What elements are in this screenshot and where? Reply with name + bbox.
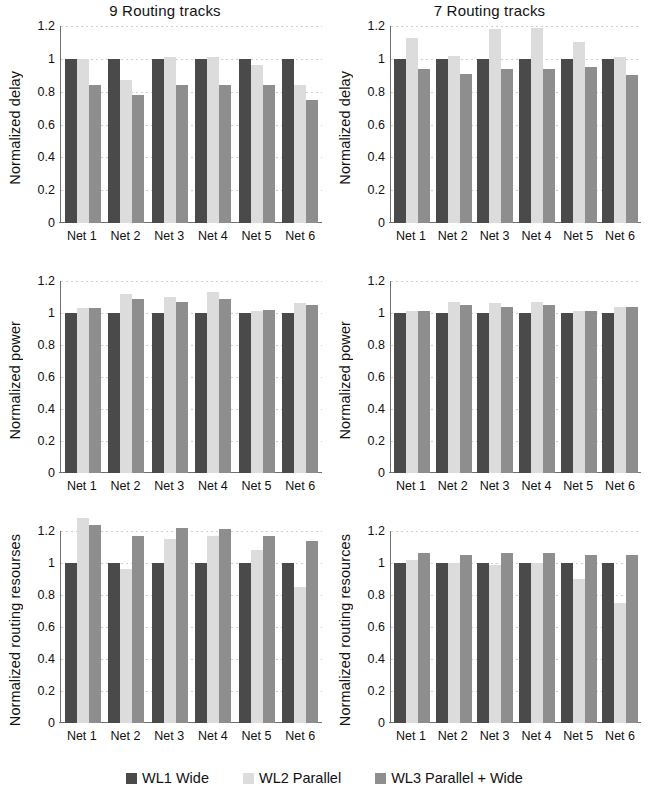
bar-group [391,26,433,223]
y-tick-label: 1 [48,306,55,320]
y-tick-label: 1 [378,556,385,570]
bar-3 [176,528,188,723]
bar-3 [543,69,555,223]
bar-group [235,281,279,473]
bar-2 [406,311,418,473]
x-axis-ticks: Net 1Net 2Net 3Net 4Net 5Net 6 [390,229,641,249]
y-tick-label: 0.4 [368,402,385,416]
bar-group [279,281,323,473]
x-tick-label: Net 5 [557,229,599,249]
legend-label: WL3 Parallel + Wide [391,770,523,786]
y-tick-label: 1.2 [368,19,385,33]
bar-3 [626,307,638,473]
bars-plot [390,26,641,223]
bar-2 [448,302,460,473]
y-tick-label: 0.8 [38,588,55,602]
x-tick-label: Net 6 [599,479,641,499]
y-tick-label: 1 [378,306,385,320]
x-tick-label: Net 2 [104,479,148,499]
y-tick-label: 0.8 [368,85,385,99]
y-tick-label: 0.8 [38,85,55,99]
plot-area: 1.210.80.60.40.20Net 1Net 2Net 3Net 4Net… [358,26,643,255]
bar-2 [251,65,263,223]
bar-1 [394,563,406,723]
y-tick-label: 0.6 [368,370,385,384]
bar-2 [120,294,132,473]
bar-groups [391,531,641,723]
bar-2 [448,56,460,223]
bar-3 [543,305,555,473]
y-axis-ticks: 1.210.80.60.40.20 [358,26,388,255]
x-axis-ticks: Net 1Net 2Net 3Net 4Net 5Net 6 [60,229,322,249]
x-tick-label: Net 2 [104,729,148,749]
y-tick-label: 1.2 [38,274,55,288]
figure-grid: 9 Routing tracksNormalized delay1.210.80… [0,0,649,755]
y-axis-ticks: 1.210.80.60.40.20 [28,531,58,755]
y-tick-label: 0.8 [368,338,385,352]
bar-1 [477,313,489,473]
bar-1 [477,59,489,223]
chart-panel-4: Normalized power1.210.80.60.40.20Net 1Ne… [330,255,649,505]
y-tick-label: 1.2 [368,524,385,538]
bar-group [599,531,641,723]
y-tick-label: 0.2 [368,183,385,197]
x-tick-label: Net 6 [278,479,322,499]
bar-1 [195,563,207,723]
bar-1 [239,313,251,473]
bar-2 [573,311,585,473]
y-tick-label: 1.2 [38,524,55,538]
bar-1 [108,313,120,473]
bar-2 [251,311,263,473]
chart-title: 9 Routing tracks [0,2,330,19]
bar-1 [195,313,207,473]
y-tick-label: 0.4 [38,652,55,666]
x-tick-label: Net 4 [191,229,235,249]
bar-group [474,281,516,473]
bar-1 [519,59,531,223]
x-tick-label: Net 5 [235,729,279,749]
bar-1 [394,313,406,473]
bar-1 [519,313,531,473]
chart-panel-5: Normalized routing resourses1.210.80.60.… [0,505,330,755]
bar-2 [120,569,132,723]
y-tick-label: 0.6 [368,620,385,634]
bar-1 [602,313,614,473]
y-tick-label: 0.4 [38,402,55,416]
bar-groups [61,531,322,723]
chart-panel-3: Normalized power1.210.80.60.40.20Net 1Ne… [0,255,330,505]
x-tick-label: Net 6 [599,229,641,249]
bar-1 [282,313,294,473]
bar-3 [460,74,472,223]
bar-2 [164,539,176,723]
bar-3 [176,302,188,473]
y-tick-label: 0 [48,716,55,730]
bar-group [61,531,105,723]
y-axis-label-text: Normalized routing resources [337,534,353,726]
bar-2 [164,297,176,473]
legend-item: WL3 Parallel + Wide [375,770,523,786]
bar-3 [626,555,638,723]
bar-1 [561,563,573,723]
bar-2 [614,307,626,473]
bar-3 [418,553,430,723]
bar-groups [61,26,322,223]
bars-plot [390,281,641,473]
bar-2 [614,57,626,223]
y-tick-label: 0.2 [368,684,385,698]
bar-3 [585,555,597,723]
bar-2 [207,536,219,723]
bar-2 [573,579,585,723]
x-tick-label: Net 5 [235,229,279,249]
chart-panel-6: Normalized routing resources1.210.80.60.… [330,505,649,755]
y-axis-ticks: 1.210.80.60.40.20 [358,531,388,755]
bar-group [558,281,600,473]
bar-2 [164,57,176,223]
chart-panel-2: 7 Routing tracksNormalized delay1.210.80… [330,0,649,255]
x-tick-label: Net 1 [390,479,432,499]
x-tick-label: Net 1 [60,729,104,749]
bar-3 [263,536,275,723]
bar-3 [219,85,231,223]
y-axis-label-text: Normalized power [7,321,23,439]
bars-plot [60,26,322,223]
bar-group [192,26,236,223]
